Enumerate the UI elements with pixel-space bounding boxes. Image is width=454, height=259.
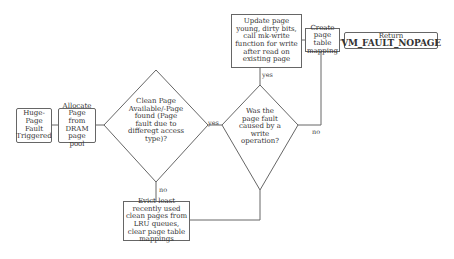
decision-write-operation: Was the page fault caused by a write ope… [237, 108, 283, 146]
edge-label-clean-yes: yes [208, 119, 219, 127]
decision-clean-page-label: Clean Page Available/-Page found (Page f… [128, 97, 184, 143]
decision-clean-page: Clean Page Available/-Page found (Page f… [126, 98, 186, 144]
start-node: Huge-Page Fault Triggered [16, 108, 52, 143]
edge-label-write-yes: yes [262, 71, 273, 79]
return-code: VM_FAULT_NOPAGE [341, 39, 441, 48]
edge-label-write-no: no [312, 128, 320, 136]
allocate-node: Allocate Page from DRAM page pool [58, 108, 96, 143]
evict-node: Evict least recently used clean pages fr… [123, 201, 190, 241]
allocate-node-label: Allocate Page from DRAM page pool [60, 103, 94, 149]
create-mapping-node-label: Create page table mapping [307, 25, 338, 55]
decision-write-operation-label: Was the page fault caused by a write ope… [239, 107, 281, 145]
edge-label-clean-no: no [159, 186, 167, 194]
update-node: Update page young, dirty bits, call mk-w… [231, 14, 302, 68]
start-node-label: Huge-Page Fault Triggered [16, 110, 51, 140]
create-mapping-node: Create page table mapping [305, 28, 340, 52]
update-node-label: Update page young, dirty bits, call mk-w… [233, 18, 300, 64]
return-node: Return VM_FAULT_NOPAGE [344, 32, 438, 49]
evict-node-label: Evict least recently used clean pages fr… [125, 198, 188, 244]
